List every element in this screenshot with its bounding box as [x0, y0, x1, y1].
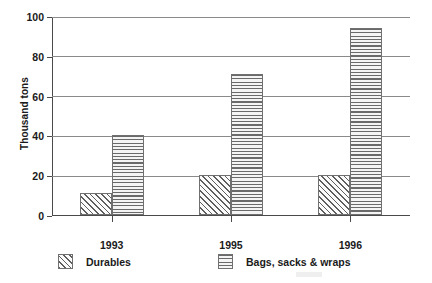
y-tick-label: 100 — [26, 11, 44, 23]
scan-artifact — [296, 272, 322, 277]
y-tick-label: 0 — [38, 210, 44, 222]
legend-entry-bags-sacks-wraps[interactable]: Bags, sacks & wraps — [218, 254, 350, 269]
legend-swatch-icon — [218, 254, 233, 269]
x-tick-mark — [112, 216, 113, 222]
bar-chart-figure: Thousand tons 020406080100 199319951996 … — [0, 0, 432, 283]
bar-bags-sacks-wraps-1996 — [350, 28, 382, 215]
legend-label: Bags, sacks & wraps — [246, 256, 350, 268]
legend-label: Durables — [86, 256, 131, 268]
y-tick-label: 20 — [32, 170, 44, 182]
plot-area: 020406080100 199319951996 — [52, 17, 410, 216]
y-tick-mark — [47, 216, 52, 217]
y-tick-label: 40 — [32, 130, 44, 142]
legend-entry-durables[interactable]: Durables — [58, 254, 131, 269]
y-tick-label: 80 — [32, 51, 44, 63]
bar-durables-1996 — [318, 175, 350, 215]
x-tick-label-1996: 1996 — [339, 239, 362, 251]
x-tick-mark — [350, 216, 351, 222]
y-tick-label: 60 — [32, 91, 44, 103]
x-tick-label-1993: 1993 — [100, 239, 123, 251]
x-tick-label-1995: 1995 — [219, 239, 242, 251]
chart-legend: DurablesBags, sacks & wraps — [0, 252, 432, 276]
x-tick-mark — [231, 216, 232, 222]
y-axis-title: Thousand tons — [19, 44, 30, 184]
bar-group — [52, 17, 410, 215]
legend-swatch-icon — [58, 254, 73, 269]
